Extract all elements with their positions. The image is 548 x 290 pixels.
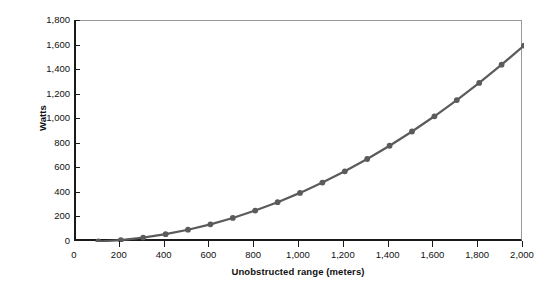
- series-polyline: [98, 46, 524, 242]
- data-point-marker: [297, 190, 303, 196]
- y-axis-tick-mark: [74, 94, 80, 95]
- x-axis-tick-mark: [164, 241, 165, 247]
- series-line-chart: [76, 21, 524, 242]
- data-point-marker: [320, 180, 326, 186]
- x-axis-tick-mark: [477, 241, 478, 247]
- x-axis-tick-mark: [343, 241, 344, 247]
- data-point-marker: [96, 239, 102, 242]
- data-point-marker: [185, 227, 191, 233]
- series-markers: [96, 43, 525, 242]
- y-axis-tick-label: 400: [30, 187, 70, 197]
- y-axis-tick-mark: [74, 216, 80, 217]
- chart-figure: Watts 02004006008001,0001,2001,4001,6001…: [0, 0, 548, 290]
- y-axis-tick-label: 1,800: [30, 15, 70, 25]
- data-point-marker: [499, 62, 505, 68]
- plot-area: [74, 20, 522, 241]
- data-point-marker: [364, 156, 370, 162]
- y-axis-tick-mark: [74, 69, 80, 70]
- data-point-marker: [140, 235, 146, 241]
- data-point-marker: [342, 168, 348, 174]
- data-point-marker: [476, 80, 482, 86]
- y-axis-tick-mark: [74, 167, 80, 168]
- x-axis-tick-mark: [388, 241, 389, 247]
- x-axis-tick-mark: [119, 241, 120, 247]
- y-axis-tick-mark: [74, 192, 80, 193]
- x-axis-tick-mark: [208, 241, 209, 247]
- data-point-marker: [252, 208, 258, 214]
- data-point-marker: [454, 97, 460, 103]
- data-point-marker: [387, 143, 393, 149]
- x-axis-tick-label: 2,000: [492, 249, 548, 260]
- data-point-marker: [409, 129, 415, 135]
- y-axis-tick-label: 200: [30, 211, 70, 221]
- y-axis-tick-mark: [74, 20, 80, 21]
- x-axis-tick-mark: [298, 241, 299, 247]
- data-point-marker: [275, 199, 281, 205]
- y-axis-tick-label: 1,200: [30, 89, 70, 99]
- data-point-marker: [163, 231, 169, 237]
- data-point-marker: [230, 215, 236, 221]
- y-axis-tick-mark: [74, 143, 80, 144]
- y-axis-tick-mark: [74, 45, 80, 46]
- x-axis-tick-mark: [432, 241, 433, 247]
- x-axis-tick-mark: [522, 241, 523, 247]
- x-axis-title: Unobstructed range (meters): [74, 266, 522, 277]
- data-point-marker: [432, 113, 438, 119]
- y-axis-tick-label: 1,400: [30, 64, 70, 74]
- data-point-marker: [208, 221, 214, 227]
- y-axis-tick-label: 800: [30, 138, 70, 148]
- y-axis-tick-mark: [74, 118, 80, 119]
- y-axis-tick-label: 600: [30, 162, 70, 172]
- y-axis-tick-label: 1,000: [30, 113, 70, 123]
- y-axis-tick-labels: 02004006008001,0001,2001,4001,6001,800: [30, 0, 70, 290]
- x-axis-tick-mark: [253, 241, 254, 247]
- y-axis-tick-label: 1,600: [30, 40, 70, 50]
- y-axis-tick-label: 0: [30, 236, 70, 246]
